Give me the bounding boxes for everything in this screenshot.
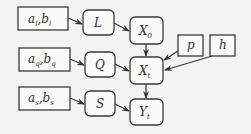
diagram-canvas: al,bl aq,bq as,bs L Q S X0 Xt Yt p h <box>0 0 251 134</box>
svg-text:p: p <box>187 38 195 52</box>
edge-abl-to-L <box>68 18 82 24</box>
node-h: h <box>210 35 235 56</box>
edge-abs-to-S <box>70 98 84 104</box>
edge-Q-to-Xt <box>115 64 129 71</box>
edge-h-to-Xt <box>165 56 212 70</box>
node-p: p <box>178 35 203 56</box>
edge-L-to-X0 <box>114 23 129 31</box>
node-L: L <box>83 10 114 35</box>
node-S: S <box>85 91 115 116</box>
node-Xt: Xt <box>130 57 163 84</box>
node-X0: X0 <box>130 17 163 44</box>
svg-text:L: L <box>93 16 102 30</box>
svg-text:al,bl: al,bl <box>28 12 51 28</box>
node-ab-l: al,bl <box>18 7 68 30</box>
node-Q: Q <box>85 52 115 77</box>
node-Yt: Yt <box>130 99 163 125</box>
svg-text:Q: Q <box>95 58 105 72</box>
svg-text:S: S <box>96 97 104 111</box>
edge-S-to-Yt <box>115 104 129 111</box>
svg-text:h: h <box>219 38 227 52</box>
edge-abq-to-Q <box>70 59 84 65</box>
edge-p-to-Xt <box>164 51 178 60</box>
node-ab-s: as,bs <box>19 87 70 110</box>
node-ab-q: aq,bq <box>19 48 70 71</box>
